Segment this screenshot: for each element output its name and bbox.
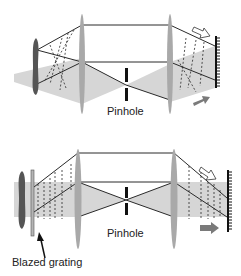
bottom-pinhole-lower	[125, 203, 128, 215]
bottom-reflective-grating	[227, 170, 232, 232]
bottom-beam-right-cone	[126, 182, 174, 217]
top-beam-left-cone	[82, 62, 126, 104]
bottom-object	[19, 171, 26, 229]
top-input-beam	[14, 58, 82, 104]
bottom-lens-2	[171, 149, 178, 249]
top-lens-1	[79, 14, 85, 114]
bottom-pinhole-label: Pinhole	[107, 227, 144, 239]
bottom-beam-left-cone	[78, 182, 126, 217]
bottom-pinhole-upper	[125, 187, 128, 198]
top-output-arrow	[193, 96, 210, 106]
top-reflective-grating	[215, 36, 220, 88]
bottom-panel	[14, 149, 232, 258]
bottom-output-arrow	[200, 222, 219, 234]
top-pinhole-lower	[125, 88, 128, 101]
blazed-grating-pointer-arrow	[37, 232, 45, 258]
top-pinhole-upper	[125, 68, 128, 82]
bottom-lens-1	[75, 149, 82, 249]
top-panel	[14, 14, 220, 114]
top-lens-2	[167, 14, 173, 114]
bottom-incident-arrow	[199, 167, 216, 180]
blazed-grating-label: Blazed grating	[12, 256, 82, 268]
top-object	[33, 38, 39, 95]
top-beam-right-cone	[126, 64, 170, 100]
bottom-blazed-grating	[31, 170, 34, 236]
top-output-beam	[170, 46, 215, 102]
top-pinhole-label: Pinhole	[107, 105, 144, 117]
